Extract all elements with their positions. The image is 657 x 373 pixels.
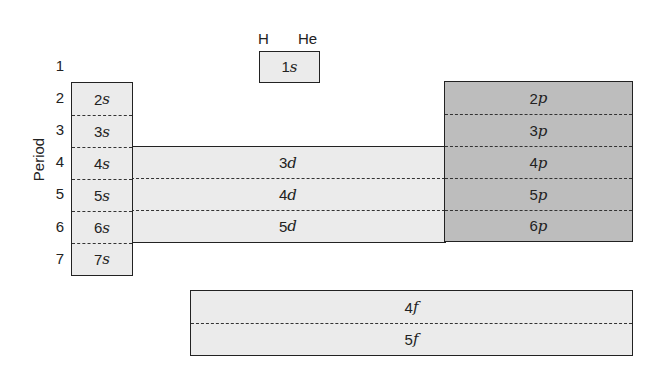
- orbital-n: 4: [94, 155, 102, 172]
- orbital-letter: f: [413, 330, 419, 348]
- orbital-n: 3: [530, 122, 538, 139]
- element-h-label: H: [258, 30, 269, 47]
- orbital-3p: 3p: [445, 115, 632, 146]
- orbital-letter: s: [102, 219, 110, 237]
- orbital-n: 6: [530, 217, 538, 234]
- orbital-n: 3: [279, 154, 287, 171]
- orbital-letter: p: [538, 122, 548, 140]
- orbital-letter: d: [287, 154, 297, 172]
- orbital-4s: 4s: [72, 148, 132, 179]
- block-f: 4f 5f: [190, 290, 633, 356]
- orbital-4f: 4f: [191, 291, 632, 323]
- orbital-3s: 3s: [72, 116, 132, 147]
- orbital-letter: p: [538, 186, 548, 204]
- orbital-1s: 1s: [260, 52, 319, 81]
- orbital-2s: 2s: [72, 83, 132, 115]
- orbital-n: 4: [279, 186, 287, 203]
- orbital-n: 2: [94, 91, 102, 108]
- period-7: 7: [53, 250, 67, 267]
- orbital-5s: 5s: [72, 180, 132, 211]
- period-4: 4: [53, 153, 67, 170]
- orbital-letter: p: [538, 89, 548, 107]
- block-1s: 1s: [259, 51, 320, 83]
- orbital-n: 4: [405, 299, 413, 316]
- orbital-letter: p: [538, 154, 548, 172]
- orbital-letter: s: [290, 58, 298, 76]
- orbital-letter: s: [102, 155, 110, 173]
- orbital-n: 1: [281, 58, 289, 75]
- orbital-6s: 6s: [72, 212, 132, 243]
- orbital-4p: 4p: [445, 147, 632, 178]
- period-axis-label: Period: [30, 136, 47, 184]
- orbital-n: 7: [94, 251, 102, 268]
- orbital-letter: d: [287, 217, 297, 235]
- orbital-n: 4: [530, 154, 538, 171]
- orbital-2p: 2p: [445, 82, 632, 114]
- orbital-5p: 5p: [445, 179, 632, 210]
- orbital-n: 5: [279, 218, 287, 235]
- orbital-letter: s: [102, 123, 110, 141]
- orbital-3d: 3d: [131, 147, 445, 178]
- block-d: 3d 4d 5d: [130, 146, 446, 243]
- orbital-letter: f: [413, 298, 419, 316]
- orbital-5f: 5f: [191, 324, 632, 354]
- orbital-letter: s: [102, 187, 110, 205]
- orbital-5d: 5d: [131, 211, 445, 241]
- orbital-letter: s: [102, 90, 110, 108]
- block-p: 2p 3p 4p 5p 6p: [444, 81, 633, 242]
- orbital-n: 3: [94, 123, 102, 140]
- element-he-label: He: [298, 30, 317, 47]
- orbital-6p: 6p: [445, 211, 632, 240]
- orbital-n: 5: [530, 186, 538, 203]
- orbital-letter: p: [538, 217, 548, 235]
- period-2: 2: [53, 89, 67, 106]
- orbital-letter: d: [287, 186, 297, 204]
- period-6: 6: [53, 218, 67, 235]
- period-5: 5: [53, 185, 67, 202]
- orbital-n: 5: [405, 331, 413, 348]
- period-1: 1: [53, 57, 67, 74]
- orbital-n: 5: [94, 187, 102, 204]
- orbital-n: 6: [94, 219, 102, 236]
- orbital-letter: s: [102, 250, 110, 268]
- block-s: 2s 3s 4s 5s 6s 7s: [71, 82, 133, 276]
- period-3: 3: [53, 121, 67, 138]
- orbital-4d: 4d: [131, 179, 445, 210]
- orbital-n: 2: [530, 90, 538, 107]
- orbital-7s: 7s: [72, 244, 132, 274]
